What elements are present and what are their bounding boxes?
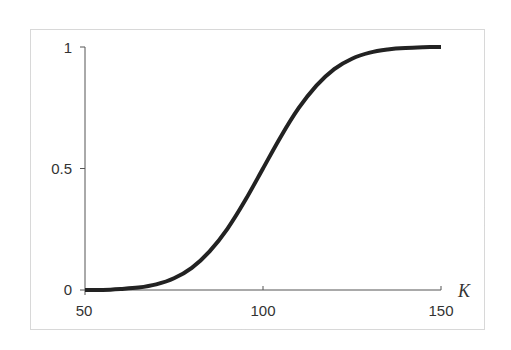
x-tick-label: 50: [76, 302, 93, 319]
chart: 0 0.5 1 50 100 150 K: [0, 0, 511, 350]
cdf-curve: [85, 47, 441, 290]
y-tick-label: 1: [64, 39, 72, 56]
x-axis-label: K: [457, 281, 471, 301]
x-tick-label: 100: [250, 302, 275, 319]
y-axis: 0 0.5 1: [51, 39, 85, 298]
x-tick-label: 150: [428, 302, 453, 319]
y-tick-label: 0: [64, 281, 72, 298]
y-tick-label: 0.5: [51, 160, 72, 177]
